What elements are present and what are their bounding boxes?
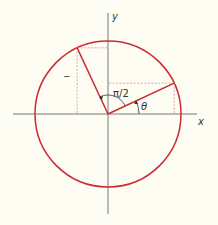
minus-mark: − bbox=[63, 71, 71, 81]
diagram-canvas: x y θ π/2 − bbox=[0, 0, 218, 225]
y-axis-label: y bbox=[111, 11, 119, 22]
vector-rotated bbox=[77, 48, 108, 114]
theta-label: θ bbox=[141, 101, 147, 112]
unit-circle-diagram: x y θ π/2 − bbox=[0, 0, 218, 225]
half-pi-label: π/2 bbox=[113, 88, 129, 99]
projection-lines bbox=[77, 48, 174, 114]
x-axis-label: x bbox=[197, 116, 204, 127]
